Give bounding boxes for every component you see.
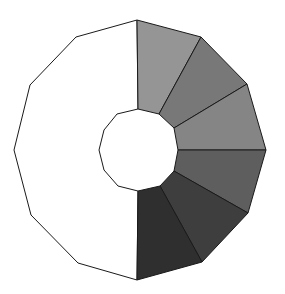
ring-diagram: [0, 0, 285, 294]
left-half-unshaded: [14, 20, 138, 280]
shaded-segments: [137, 20, 266, 280]
ring-svg: [0, 0, 285, 294]
